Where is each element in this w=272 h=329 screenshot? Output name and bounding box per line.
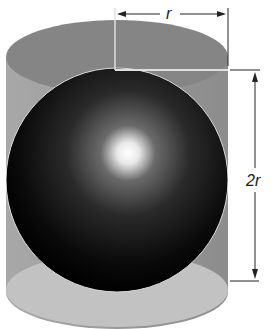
sphere: [6, 68, 228, 292]
diagram-canvas: r 2r: [0, 0, 272, 329]
height-label: 2r: [245, 172, 261, 189]
radius-dimension: [117, 11, 226, 17]
radius-label: r: [166, 5, 172, 22]
